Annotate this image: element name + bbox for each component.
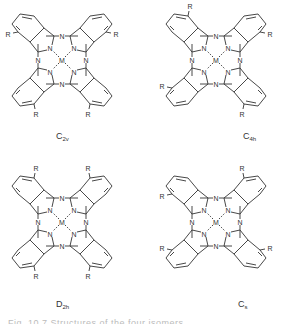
svg-text:N: N [237, 57, 242, 64]
symmetry-label-cs: Cs [238, 299, 248, 310]
svg-text:R: R [113, 31, 118, 38]
svg-text:N: N [35, 57, 40, 64]
svg-text:R: R [159, 245, 164, 252]
svg-text:R: R [159, 83, 164, 90]
svg-text:R: R [33, 111, 38, 118]
svg-text:N: N [201, 231, 206, 238]
svg-text:N: N [201, 207, 206, 214]
figure-caption-clipped: Fig. 10.7 Structures of the four isomers… [8, 318, 193, 324]
svg-text:N: N [47, 69, 52, 76]
svg-text:R: R [187, 3, 192, 10]
svg-text:M: M [59, 219, 65, 226]
isomer-panel-c2v: MNRNRNRNRNNNN C2v [0, 0, 154, 150]
svg-text:R: R [5, 31, 10, 38]
svg-text:R: R [239, 111, 244, 118]
svg-text:R: R [267, 245, 272, 252]
svg-text:N: N [71, 45, 76, 52]
svg-text:R: R [159, 193, 164, 200]
svg-text:N: N [71, 69, 76, 76]
phthalocyanine-structure-c4h: MNRNRNRNRNNNN [154, 0, 307, 120]
svg-text:N: N [201, 69, 206, 76]
svg-text:N: N [237, 219, 242, 226]
svg-text:N: N [213, 243, 218, 250]
svg-text:N: N [213, 195, 218, 202]
isomer-panel-d2h: MNRNRNRNRNNNN D2h [0, 162, 154, 312]
svg-text:N: N [47, 45, 52, 52]
symmetry-label-c2v: C2v [56, 131, 69, 142]
svg-text:N: N [83, 219, 88, 226]
symmetry-label-d2h: D2h [56, 299, 69, 310]
svg-text:R: R [267, 31, 272, 38]
svg-text:N: N [71, 207, 76, 214]
svg-text:R: R [33, 165, 38, 172]
svg-text:M: M [213, 219, 219, 226]
svg-text:N: N [59, 81, 64, 88]
svg-text:N: N [47, 207, 52, 214]
svg-text:R: R [85, 165, 90, 172]
svg-text:N: N [189, 57, 194, 64]
svg-text:N: N [213, 33, 218, 40]
svg-text:N: N [83, 57, 88, 64]
isomer-panel-c4h: MNRNRNRNRNNNN C4h [154, 0, 307, 150]
svg-text:N: N [59, 33, 64, 40]
svg-text:N: N [59, 243, 64, 250]
svg-text:R: R [33, 273, 38, 280]
svg-text:R: R [85, 273, 90, 280]
svg-text:M: M [213, 57, 219, 64]
phthalocyanine-structure-d2h: MNRNRNRNRNNNN [0, 162, 154, 282]
svg-text:N: N [59, 195, 64, 202]
svg-text:M: M [59, 57, 65, 64]
svg-text:N: N [225, 231, 230, 238]
phthalocyanine-structure-c2v: MNRNRNRNRNNNN [0, 0, 154, 120]
symmetry-label-c4h: C4h [243, 131, 256, 142]
svg-text:N: N [201, 45, 206, 52]
svg-text:N: N [189, 219, 194, 226]
svg-text:N: N [225, 69, 230, 76]
svg-text:N: N [225, 45, 230, 52]
isomer-panel-cs: MNRNRNRNRNNNN Cs [154, 162, 307, 312]
phthalocyanine-structure-cs: MNRNRNRNRNNNN [154, 162, 307, 282]
svg-text:N: N [71, 231, 76, 238]
svg-text:N: N [225, 207, 230, 214]
svg-text:R: R [239, 165, 244, 172]
svg-text:N: N [47, 231, 52, 238]
svg-text:R: R [85, 111, 90, 118]
svg-text:N: N [213, 81, 218, 88]
svg-text:N: N [35, 219, 40, 226]
